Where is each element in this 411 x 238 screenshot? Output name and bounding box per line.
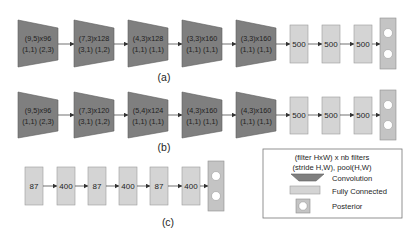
fc-layer: 500 (322, 97, 340, 134)
conv-stride-pool-text: (1,1) (1,1) (132, 117, 164, 126)
posterior-circle-icon (384, 29, 393, 38)
conv-filter-text: (4,3)x160 (187, 106, 217, 115)
convolution-trapezoid-icon (128, 20, 168, 67)
fc-units-text: 87 (155, 182, 164, 191)
conv-stride-pool-text: (1,1) (2,3) (22, 117, 54, 126)
architecture-a: (9,5)x96 (1,1) (2,3) (7,3)x128 (3,1) (1,… (18, 18, 396, 83)
legend: (filter HxW) x nb filters (stride H,W), … (263, 149, 402, 218)
conv-filter-text: (9,5)x96 (25, 106, 51, 115)
conv-layer: (9,5)x96 (1,1) (2,3) (18, 92, 58, 138)
fc-units-text: 400 (184, 182, 198, 191)
fc-units-text: 87 (30, 182, 39, 191)
fc-units-text: 500 (324, 111, 338, 120)
architecture-b: (9,5)x96 (1,1) (2,3) (7,3)x120 (3,1) (1,… (18, 90, 396, 153)
conv-layer: (3,3)x160 (1,1) (1,1) (236, 20, 276, 67)
fc-units-text: 87 (93, 182, 102, 191)
convolution-trapezoid-icon (128, 92, 168, 138)
fc-layer: 87 (150, 167, 168, 205)
conv-layer: (7,3)x120 (3,1) (1,2) (74, 92, 114, 138)
conv-filter-text: (7,3)x128 (79, 34, 109, 43)
fc-layer: 500 (354, 25, 372, 63)
conv-layer: (9,5)x96 (1,1) (2,3) (18, 20, 58, 67)
conv-stride-pool-text: (1,1) (1,1) (186, 117, 218, 126)
convolution-trapezoid-icon (74, 92, 114, 138)
posterior-circle-icon (384, 101, 393, 110)
fc-layer: 500 (290, 97, 308, 134)
network-architecture-diagram: (9,5)x96 (1,1) (2,3) (7,3)x128 (3,1) (1,… (0, 0, 411, 238)
posterior-circle-icon (299, 202, 307, 210)
conv-stride-pool-text: (1,1) (1,1) (186, 45, 218, 54)
conv-filter-text: (4,3)x128 (133, 34, 163, 43)
conv-filter-text: (3,3)x160 (241, 34, 271, 43)
conv-filter-text: (3,3)x160 (187, 34, 217, 43)
fc-layer: 400 (182, 167, 200, 205)
legend-posterior-label: Posterior (332, 202, 363, 211)
fc-layer: 500 (290, 25, 308, 63)
legend-fully-connected-label: Fully Connected (332, 187, 387, 196)
conv-layer: (4,3)x160 (1,1) (1,1) (182, 92, 222, 138)
posterior-layer (380, 90, 396, 140)
fc-units-text: 400 (59, 182, 73, 191)
posterior-circle-icon (384, 121, 393, 130)
posterior-layer (208, 161, 224, 211)
conv-stride-pool-text: (1,1) (1,1) (132, 45, 164, 54)
fc-units-text: 500 (292, 111, 306, 120)
legend-convolution-label: Convolution (332, 174, 372, 183)
conv-filter-text: (9,5)x96 (25, 34, 51, 43)
conv-stride-pool-text: (1,1) (2,3) (22, 45, 54, 54)
fc-layer: 400 (119, 167, 137, 205)
posterior-rect-icon (380, 90, 396, 140)
conv-layer: (4,3)x160 (1,1) (1,1) (236, 92, 276, 138)
subfigure-label-c: (c) (162, 216, 174, 228)
posterior-circle-icon (212, 192, 221, 201)
convolution-trapezoid-icon (18, 20, 58, 67)
conv-stride-pool-text: (1,1) (1,1) (240, 117, 272, 126)
fc-layer: 87 (88, 167, 106, 205)
fc-units-text: 500 (356, 40, 370, 49)
conv-layer: (4,3)x128 (1,1) (1,1) (128, 20, 168, 67)
conv-layer: (5,4)x124 (1,1) (1,1) (128, 92, 168, 138)
posterior-circle-icon (212, 172, 221, 181)
conv-stride-pool-text: (3,1) (1,2) (78, 117, 110, 126)
fc-units-text: 500 (356, 111, 370, 120)
legend-header-line1: (filter HxW) x nb filters (295, 153, 370, 162)
subfigure-label-a: (a) (158, 71, 171, 83)
fc-units-text: 400 (121, 182, 135, 191)
fc-layer: 500 (322, 25, 340, 63)
convolution-trapezoid-icon (236, 20, 276, 67)
conv-filter-text: (7,3)x120 (79, 106, 109, 115)
posterior-rect-icon (380, 18, 396, 69)
posterior-rect-icon (208, 161, 224, 211)
fc-layer: 500 (354, 97, 372, 134)
convolution-trapezoid-icon (182, 92, 222, 138)
conv-stride-pool-text: (1,1) (1,1) (240, 45, 272, 54)
architecture-c: 87 400 87 400 87 400 (25, 161, 224, 228)
convolution-trapezoid-icon (182, 20, 222, 67)
fc-units-text: 500 (324, 40, 338, 49)
fully-connected-icon (290, 186, 320, 194)
convolution-trapezoid-icon (18, 92, 58, 138)
conv-layer: (3,3)x160 (1,1) (1,1) (182, 20, 222, 67)
posterior-circle-icon (384, 50, 393, 59)
fc-units-text: 500 (292, 40, 306, 49)
posterior-layer (380, 18, 396, 69)
conv-filter-text: (5,4)x124 (133, 106, 163, 115)
conv-filter-text: (4,3)x160 (241, 106, 271, 115)
fc-layer: 400 (57, 167, 75, 205)
convolution-trapezoid-icon (236, 92, 276, 138)
conv-stride-pool-text: (3,1) (1,2) (78, 45, 110, 54)
conv-layer: (7,3)x128 (3,1) (1,2) (74, 20, 114, 67)
legend-header-line2: (stride H,W), pool(H,W) (293, 163, 372, 172)
subfigure-label-b: (b) (158, 141, 171, 153)
fc-layer: 87 (25, 167, 43, 205)
convolution-trapezoid-icon (74, 20, 114, 67)
